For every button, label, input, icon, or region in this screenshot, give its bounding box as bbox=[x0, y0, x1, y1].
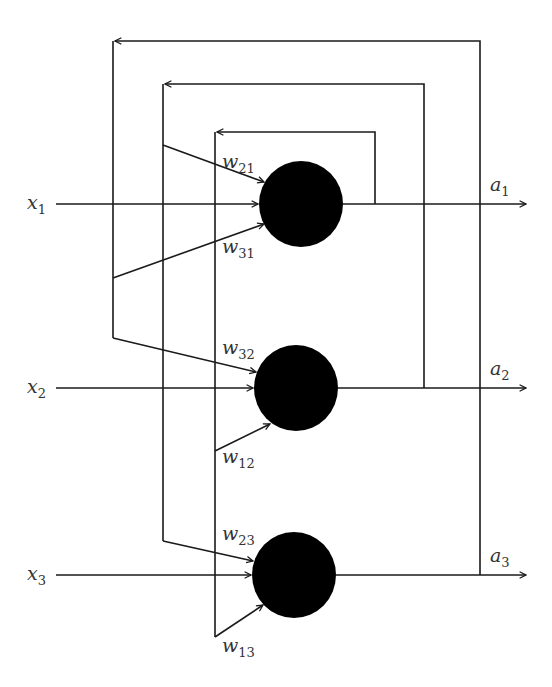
recurrent-network-diagram: x1 x2 x3 a1 a2 a3 w21 w31 w32 w12 w23 w1… bbox=[0, 0, 552, 687]
weight-label-w21: w21 bbox=[222, 150, 255, 176]
weight-label-w31: w31 bbox=[222, 235, 255, 261]
weight-label-w13: w13 bbox=[222, 634, 255, 660]
input-label-x2: x2 bbox=[27, 375, 46, 401]
neuron-1 bbox=[259, 161, 343, 247]
output-label-a1: a1 bbox=[490, 173, 510, 199]
weight-label-w32: w32 bbox=[222, 336, 255, 362]
input-label-x1: x1 bbox=[27, 191, 46, 217]
output-label-a3: a3 bbox=[490, 544, 510, 570]
neuron-2 bbox=[254, 345, 338, 431]
weight-label-w12: w12 bbox=[222, 445, 255, 471]
weight-line-w13 bbox=[215, 605, 263, 637]
weight-label-w23: w23 bbox=[222, 522, 255, 548]
input-label-x3: x3 bbox=[27, 562, 46, 588]
output-label-a2: a2 bbox=[490, 357, 510, 383]
feedback-loop-a3 bbox=[115, 41, 480, 575]
neuron-3 bbox=[252, 532, 336, 618]
